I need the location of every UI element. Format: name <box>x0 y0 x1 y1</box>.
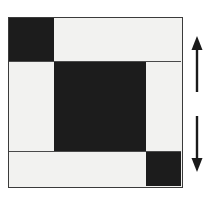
figure-canvas <box>0 0 222 203</box>
grid-seam-upper <box>9 61 181 62</box>
cell-top-left-dark <box>9 18 54 61</box>
cell-center-dark <box>54 61 146 151</box>
arrow-annotation-group <box>184 28 214 178</box>
cell-bottom-left-light <box>9 151 146 186</box>
cell-top-right-light <box>54 18 181 61</box>
checkerboard-square <box>8 17 183 188</box>
cell-middle-right-light <box>146 61 181 151</box>
cell-middle-left-light <box>9 61 54 151</box>
up-arrow-icon <box>192 36 203 92</box>
cell-bottom-right-dark <box>146 151 181 186</box>
down-arrow-icon <box>192 116 203 172</box>
grid-seam-lower <box>9 151 181 152</box>
